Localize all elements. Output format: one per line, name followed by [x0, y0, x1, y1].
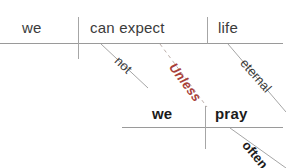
word-object-life: life: [218, 20, 238, 35]
word-subject-we: we: [22, 20, 42, 35]
word-predicate-can-expect: can expect: [90, 20, 165, 35]
word-subordinate-predicate-pray: pray: [215, 106, 248, 121]
word-subordinate-subject-we: we: [152, 106, 172, 121]
sentence-diagram-canvas: we can expect life not eternal Unless we…: [0, 0, 286, 168]
